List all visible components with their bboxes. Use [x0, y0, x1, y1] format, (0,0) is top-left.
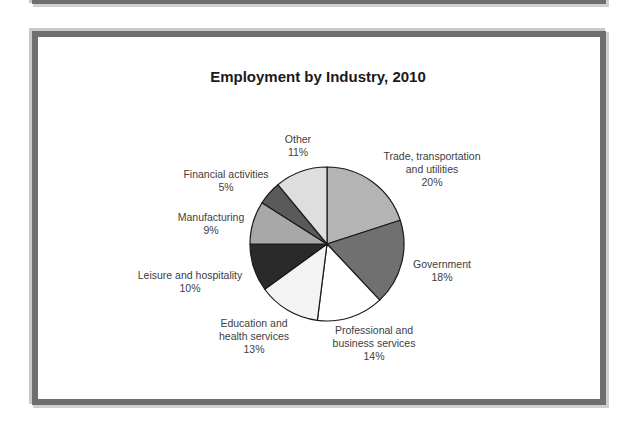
slice-name-label: Government — [413, 258, 471, 270]
slice-value-label: 13% — [243, 343, 264, 355]
chart-title: Employment by Industry, 2010 — [210, 68, 426, 85]
slice-label: Government18% — [413, 258, 471, 283]
slice-label: Leisure and hospitality10% — [138, 269, 243, 294]
slice-label: Professional andbusiness services14% — [333, 324, 416, 362]
slice-label: Manufacturing9% — [178, 211, 245, 236]
slice-value-label: 11% — [288, 146, 308, 158]
slice-label: Education andhealth services13% — [219, 317, 289, 355]
slice-value-label: 20% — [421, 176, 442, 188]
slice-name-label: Trade, transportation — [383, 150, 480, 162]
slice-name-label: Manufacturing — [178, 211, 245, 223]
slice-value-label: 5% — [218, 181, 233, 193]
slice-value-label: 14% — [363, 350, 384, 362]
slice-name-label: Professional and — [335, 324, 413, 336]
slice-value-label: 9% — [203, 224, 218, 236]
slice-label: Financial activities5% — [183, 168, 268, 193]
pie-chart: Employment by Industry, 2010 Trade, tran… — [0, 0, 636, 435]
slice-value-label: 10% — [179, 282, 200, 294]
slice-name-label: Leisure and hospitality — [138, 269, 243, 281]
slice-value-label: 18% — [431, 271, 452, 283]
slice-name-label: health services — [219, 330, 289, 342]
slice-label: Other11% — [285, 133, 312, 158]
slice-name-label: Financial activities — [183, 168, 268, 180]
slice-label: Trade, transportationand utilities20% — [383, 150, 480, 188]
slice-name-label: Education and — [220, 317, 287, 329]
pie-slices — [250, 167, 404, 321]
slice-name-label: business services — [333, 337, 416, 349]
slice-name-label: and utilities — [406, 163, 459, 175]
slice-name-label: Other — [285, 133, 312, 145]
